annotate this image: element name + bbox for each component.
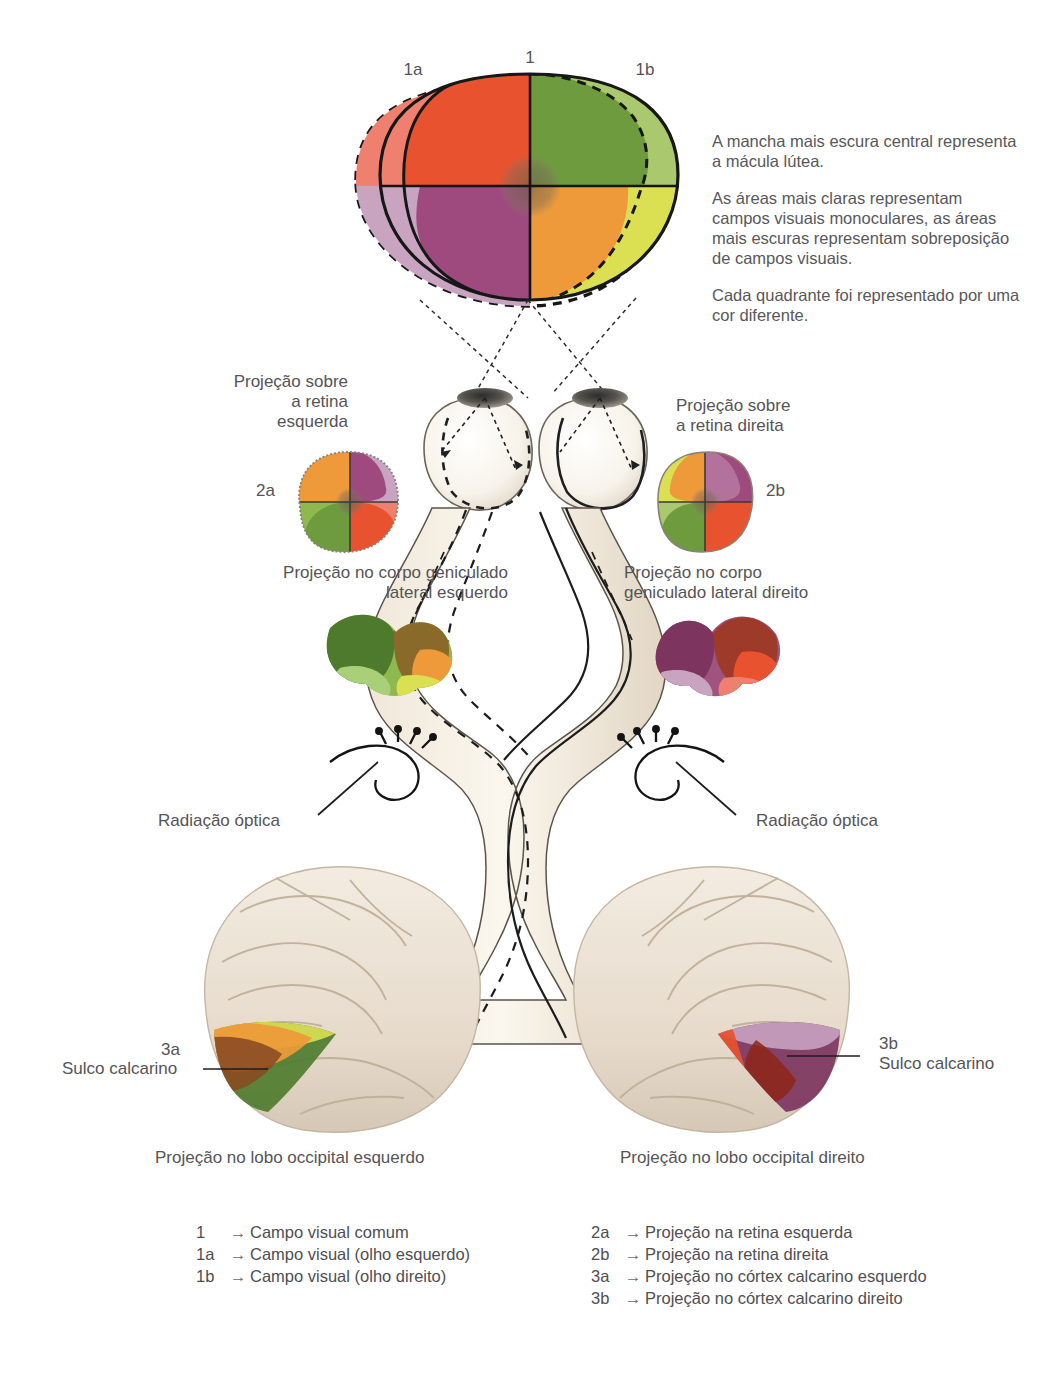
- legend-row: 1 → Campo visual comum: [196, 1222, 470, 1244]
- callout-optic-radiation-left: Radiação óptica: [158, 811, 280, 831]
- callout-optic-radiation-right: Radiação óptica: [756, 811, 878, 831]
- occipital-lobe-right: [574, 867, 856, 1132]
- explanatory-notes: A mancha mais escura central representa …: [712, 131, 1022, 342]
- label-field-1: 1: [495, 48, 565, 68]
- callout-retina-left: Projeção sobre a retina esquerda: [188, 372, 348, 432]
- retina-projection-right: [645, 440, 765, 564]
- legend-row: 1b → Campo visual (olho direito): [196, 1266, 470, 1288]
- legend-arrow: →: [621, 1222, 645, 1244]
- legend-key: 3a: [591, 1266, 621, 1288]
- legend-key: 3b: [591, 1288, 621, 1310]
- retina-projection-left: [290, 440, 410, 564]
- legend-row: 1a → Campo visual (olho esquerdo): [196, 1244, 470, 1266]
- callout-calcarine-left: Sulco calcarino: [62, 1059, 177, 1079]
- legend-text: Campo visual comum: [250, 1222, 470, 1244]
- lgnR-salmon: [719, 677, 777, 709]
- callout-occipital-right: Projeção no lobo occipital direito: [620, 1148, 865, 1168]
- callout-retina-right: Projeção sobre a retina direita: [676, 396, 896, 436]
- callout-occipital-left: Projeção no lobo occipital esquerdo: [155, 1148, 424, 1168]
- legend-text: Projeção na retina esquerda: [645, 1222, 927, 1244]
- occipital-lobe-left: [200, 867, 480, 1132]
- legend-left-column: 1 → Campo visual comum 1a → Campo visual…: [196, 1222, 470, 1288]
- legend-key: 2a: [591, 1222, 621, 1244]
- note-quadrant-colors: Cada quadrante foi representado por uma …: [712, 285, 1022, 325]
- legend-text: Campo visual (olho direito): [250, 1266, 470, 1288]
- legend-key: 1: [196, 1222, 226, 1244]
- legend-right-column: 2a → Projeção na retina esquerda 2b → Pr…: [591, 1222, 927, 1310]
- label-cortex-3a: 3a: [161, 1040, 180, 1060]
- visual-field-diagram: [340, 60, 720, 322]
- note-macula: A mancha mais escura central representa …: [712, 131, 1022, 171]
- legend-row: 3a → Projeção no córtex calcarino esquer…: [591, 1266, 927, 1288]
- legend-arrow: →: [621, 1244, 645, 1266]
- label-retina-2b: 2b: [766, 481, 785, 501]
- legend-row: 2a → Projeção na retina esquerda: [591, 1222, 927, 1244]
- callout-lgn-left: Projeção no corpo geniculado lateral esq…: [188, 563, 508, 603]
- eyeball-right: [539, 388, 647, 510]
- legend-text: Projeção na retina direita: [645, 1244, 927, 1266]
- legend-arrow: →: [621, 1288, 645, 1310]
- label-field-1b: 1b: [610, 60, 680, 80]
- legend-row: 2b → Projeção na retina direita: [591, 1244, 927, 1266]
- note-monocular-binocular: As áreas mais claras representam campos …: [712, 188, 1022, 268]
- callout-lgn-right: Projeção no corpo geniculado lateral dir…: [624, 563, 914, 603]
- legend-key: 2b: [591, 1244, 621, 1266]
- legend-key: 1a: [196, 1244, 226, 1266]
- projection-rays: [420, 298, 636, 398]
- legend-key: 1b: [196, 1266, 226, 1288]
- visual-field-quadrants: [340, 60, 720, 322]
- lgn-projection-right: [646, 600, 796, 710]
- eyeball-left: [424, 388, 532, 510]
- label-field-1a: 1a: [378, 60, 448, 80]
- figure-canvas: 1a 1 1b A mancha mais escura central rep…: [0, 0, 1054, 1383]
- legend-arrow: →: [226, 1244, 250, 1266]
- legend-arrow: →: [226, 1266, 250, 1288]
- label-retina-2a: 2a: [256, 481, 275, 501]
- legend-row: 3b → Projeção no córtex calcarino direit…: [591, 1288, 927, 1310]
- legend-text: Campo visual (olho esquerdo): [250, 1244, 470, 1266]
- legend-right-rows: 2a → Projeção na retina esquerda 2b → Pr…: [591, 1222, 927, 1310]
- legend-arrow: →: [226, 1222, 250, 1244]
- legend-text: Projeção no córtex calcarino direito: [645, 1288, 927, 1310]
- leader-radiation-right: [676, 762, 736, 815]
- callout-calcarine-right: Sulco calcarino: [879, 1054, 994, 1074]
- legend-arrow: →: [621, 1266, 645, 1288]
- label-cortex-3b: 3b: [879, 1034, 898, 1054]
- legend-text: Projeção no córtex calcarino esquerdo: [645, 1266, 927, 1288]
- legend-left-rows: 1 → Campo visual comum 1a → Campo visual…: [196, 1222, 470, 1288]
- leader-radiation-left: [318, 762, 378, 815]
